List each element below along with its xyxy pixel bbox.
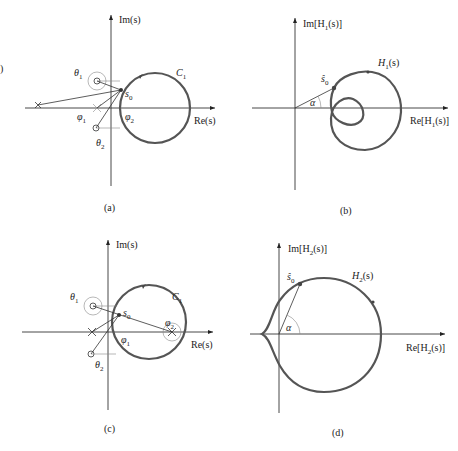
theta1-label: θ1 bbox=[74, 67, 83, 81]
caption-c: (c) bbox=[104, 423, 115, 435]
h2-direction-marker bbox=[371, 300, 374, 303]
re-axis-label: Re(s) bbox=[194, 115, 216, 127]
alpha-label: α bbox=[286, 322, 292, 333]
vector-zero1-pole2 bbox=[93, 306, 172, 332]
phi2-label: φ2 bbox=[125, 111, 135, 125]
re-axis-label: Re[H1(s)] bbox=[410, 115, 449, 129]
theta1-label: θ1 bbox=[70, 291, 79, 305]
im-axis-label: Im(s) bbox=[119, 14, 141, 26]
phi2-label: φ2 bbox=[165, 317, 175, 331]
im-axis-label: Im(s) bbox=[116, 239, 138, 251]
vector-pole1-s0 bbox=[38, 90, 121, 105]
im-axis-label: Im[H1(s)] bbox=[303, 18, 342, 32]
s0-label: s0 bbox=[123, 307, 131, 321]
contour-label: C1 bbox=[172, 291, 183, 305]
s0hat-label: ŝ0 bbox=[287, 271, 295, 285]
vector-pole1-s0 bbox=[92, 315, 119, 332]
caption-d: (d) bbox=[332, 427, 344, 439]
h1-label: H1(s) bbox=[377, 57, 399, 71]
re-axis-label: Re[H2(s)] bbox=[406, 342, 445, 356]
vector-zero1-s0 bbox=[97, 81, 121, 90]
phi1-label: φ1 bbox=[77, 111, 87, 125]
s0hat-label: ŝ0 bbox=[321, 73, 329, 87]
s0hat-point bbox=[298, 282, 302, 286]
h2-label: H2(s) bbox=[351, 270, 373, 284]
s0hat-point bbox=[332, 86, 336, 90]
h1-curve bbox=[331, 72, 401, 150]
caption-a: (a) bbox=[104, 202, 115, 214]
panel-c: Im(s) Re(s) C1 s0 θ1 φ2 φ1 θ bbox=[22, 239, 213, 435]
vector-pole2-s0 bbox=[97, 90, 121, 108]
contour-label: C1 bbox=[176, 67, 187, 81]
panel-b: Im[H1(s)] Re[H1(s)] H1(s) ŝ0 α (b) bbox=[252, 18, 449, 217]
phi1-label: φ1 bbox=[121, 334, 131, 348]
theta2-label: θ2 bbox=[95, 359, 104, 373]
re-axis-label: Re(s) bbox=[191, 339, 213, 351]
vector-zero2-s0 bbox=[96, 90, 121, 128]
alpha-label: α bbox=[310, 97, 316, 108]
pole-zero-mapping-figure: ) Im(s) Re(s) C1 s0 bbox=[0, 0, 458, 451]
theta2-label: θ2 bbox=[96, 137, 105, 151]
im-axis-label: Im[H2(s)] bbox=[288, 243, 327, 257]
panel-a: Im(s) Re(s) C1 s0 θ1 φ1 φ2 θ bbox=[25, 14, 216, 214]
edge-fragment: ) bbox=[0, 63, 3, 75]
panel-d: Im[H2(s)] Re[H2(s)] H2(s) ŝ0 α (d) bbox=[250, 243, 445, 439]
h1-direction-marker bbox=[366, 70, 369, 73]
caption-b: (b) bbox=[340, 205, 352, 217]
h2-curve bbox=[262, 278, 381, 392]
alpha-arc bbox=[318, 96, 321, 108]
s0-label: s0 bbox=[125, 88, 133, 102]
